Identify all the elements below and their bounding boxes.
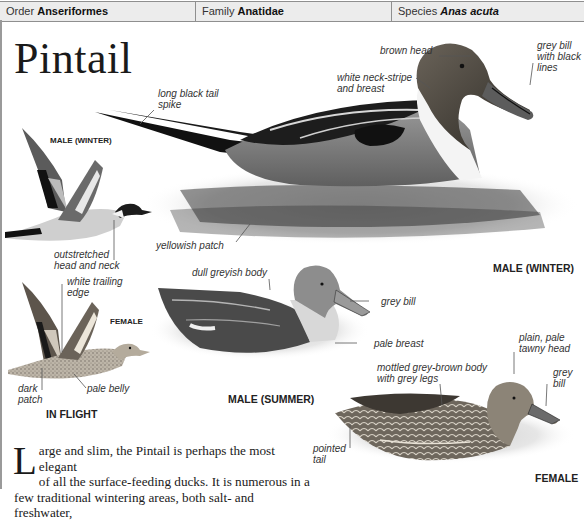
label-grey-bill-line1: grey bill	[537, 40, 571, 51]
caption-male-summer: MALE (SUMMER)	[228, 393, 314, 405]
label-trailing-edge-line1: white trailing	[67, 276, 123, 287]
label-dark-patch-line2: patch	[18, 394, 42, 405]
flight-female-illustration	[8, 282, 150, 390]
label-trailing-edge-line2: edge	[67, 287, 89, 298]
caption-in-flight: IN FLIGHT	[46, 408, 97, 420]
label-pointed-tail-line2: tail	[313, 454, 326, 465]
label-neck-stripe-line2: and breast	[337, 83, 384, 94]
label-dark-patch-line1: dark	[18, 383, 37, 394]
label-tawny-head-line1: plain, pale	[519, 332, 565, 343]
drop-cap: L	[13, 445, 37, 476]
label-female-bill-line1: grey	[553, 367, 572, 378]
label-brown-head: brown head	[380, 45, 432, 56]
male-summer-illustration	[150, 265, 370, 360]
label-grey-bill-line3: lines	[537, 62, 558, 73]
label-outstretched-line2: head and neck	[54, 260, 120, 271]
label-mottled-line2: with grey legs	[377, 373, 438, 384]
label-grey-bill-summer: grey bill	[381, 296, 415, 307]
label-pale-breast: pale breast	[374, 338, 423, 349]
label-yellowish-patch: yellowish patch	[156, 240, 224, 251]
label-neck-stripe-line1: white neck-stripe	[337, 72, 412, 83]
label-female-bill-line2: bill	[553, 378, 565, 389]
description-line-2: of all the surface-feeding ducks. It is …	[39, 474, 310, 489]
label-tawny-head-line2: tawny head	[519, 343, 570, 354]
label-grey-bill-line2: with black	[537, 51, 581, 62]
species-description: L arge and slim, the Pintail is perhaps …	[14, 443, 314, 521]
description-line-1: arge and slim, the Pintail is perhaps th…	[39, 443, 275, 474]
label-pale-belly: pale belly	[87, 383, 129, 394]
description-line-3: few traditional wintering areas, both sa…	[14, 490, 254, 521]
label-outstretched-line1: outstretched	[54, 249, 109, 260]
flight-male-illustration	[5, 128, 152, 260]
label-tail-spike-line2: spike	[158, 99, 181, 110]
caption-flight-male: MALE (WINTER)	[50, 136, 112, 145]
label-pointed-tail-line1: pointed	[313, 443, 346, 454]
caption-female: FEMALE	[535, 472, 578, 484]
label-tail-spike-line1: long black tail	[158, 88, 219, 99]
caption-flight-female: FEMALE	[110, 317, 143, 326]
label-mottled-line1: mottled grey-brown body	[377, 362, 487, 373]
caption-male-winter: MALE (WINTER)	[493, 262, 574, 274]
label-dull-greyish-body: dull greyish body	[192, 267, 267, 278]
